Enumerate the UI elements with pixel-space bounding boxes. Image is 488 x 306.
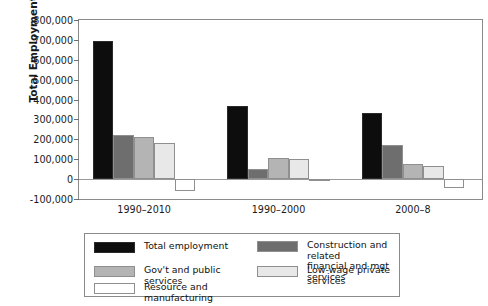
y-axis-tick [74, 119, 79, 120]
bar [309, 179, 330, 181]
legend-label: Resource and manufacturing [144, 282, 244, 303]
bar [93, 41, 114, 179]
y-axis-tick-label: 300,000 [3, 114, 73, 125]
legend-swatch [94, 242, 135, 253]
y-axis-tick-label: 100,000 [3, 154, 73, 165]
zero-baseline [79, 179, 482, 180]
bar [444, 179, 465, 188]
legend-label: Total employment [144, 241, 228, 252]
y-axis-tick-label: 400,000 [3, 94, 73, 105]
bar [362, 113, 383, 179]
legend-swatch [94, 266, 135, 277]
legend-label: Low-wage private services [307, 265, 397, 286]
legend-item: Total employment [94, 241, 244, 253]
legend-swatch [94, 283, 135, 294]
y-axis-tick-label: 200,000 [3, 134, 73, 145]
chart-legend: Total employmentGov't and public service… [84, 233, 400, 297]
bar [382, 145, 403, 179]
y-axis-tick-label: 600,000 [3, 54, 73, 65]
bar [134, 137, 155, 179]
bar [403, 164, 424, 179]
y-axis-tick-label: -100,000 [3, 194, 73, 205]
y-axis-tick [74, 80, 79, 81]
y-axis-tick-label: 700,000 [3, 34, 73, 45]
legend-item: Resource and manufacturing [94, 282, 244, 303]
legend-item: Low-wage private services [257, 265, 397, 286]
y-axis-tick [74, 60, 79, 61]
bar [113, 135, 134, 179]
legend-swatch [257, 241, 298, 252]
x-axis-tick-label: 2000–8 [395, 204, 430, 215]
legend-swatch [257, 266, 298, 277]
bar [175, 179, 196, 191]
bar [423, 166, 444, 179]
bar [154, 143, 175, 179]
y-axis-tick [74, 139, 79, 140]
bar [248, 169, 269, 179]
y-axis-tick [74, 159, 79, 160]
y-axis-tick [74, 100, 79, 101]
y-axis-tick-label: 0 [3, 174, 73, 185]
y-axis-tick [74, 199, 79, 200]
x-axis-tick-label: 1990–2000 [252, 204, 306, 215]
x-axis-tick-label: 1990–2010 [117, 204, 171, 215]
y-axis-tick [74, 40, 79, 41]
plot-area: 800,000700,000600,000500,000400,000300,0… [78, 19, 483, 200]
y-axis-tick [74, 20, 79, 21]
bar [268, 158, 289, 179]
y-axis-tick-label: 800,000 [3, 15, 73, 26]
plot-inner: 800,000700,000600,000500,000400,000300,0… [79, 20, 482, 199]
bar [289, 159, 310, 179]
y-axis-tick-label: 500,000 [3, 74, 73, 85]
bar-chart-figure: Total Employment Growth 800,000700,00060… [0, 0, 488, 306]
bar [227, 106, 248, 179]
